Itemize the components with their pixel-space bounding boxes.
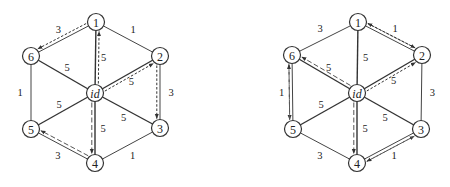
edge-weight-label: 3 [317,23,322,34]
node-label: 4 [92,157,98,171]
edge-weight-label: 5 [318,99,323,110]
edge-weight-label: 1 [392,23,397,34]
edge-weight-label: 3 [168,87,173,98]
edge-weight-label: 5 [362,123,367,134]
path-arrow-3-4 [367,136,414,161]
edge-weight-label: 1 [131,24,136,35]
node-label: 3 [418,123,424,137]
edge-6-1 [292,22,358,55]
node-label: 5 [28,123,34,137]
edge-weight-label: 5 [363,52,368,63]
node-5: 5 [285,121,302,138]
edge-weight-label: 5 [391,75,396,86]
edge-4-5 [293,129,357,163]
edge-weight-label: 1 [279,87,284,98]
path-arrow-1-6 [38,24,86,49]
path-arrow-4-5 [41,131,88,156]
edge-4-5 [31,129,95,163]
node-1: 1 [350,14,367,31]
edge-id-1 [357,22,358,93]
edge-weight-label: 3 [55,150,60,161]
graph-diagram: 123456id123456id 13131355555513131355555… [0,0,450,187]
node-label: 2 [157,50,163,64]
edge-id-1 [95,22,96,93]
edge-id-5 [293,93,357,129]
edge-weight-label: 3 [56,24,61,35]
node-label: 6 [289,49,295,63]
node-2: 2 [152,48,169,65]
node-label: 4 [354,157,360,171]
edge-weight-label: 5 [56,99,61,110]
edge-weight-label: 1 [17,87,22,98]
edge-weight-label: 5 [129,76,134,87]
node-3: 3 [413,121,430,138]
edge-weight-label: 5 [121,112,126,123]
node-id: id [349,85,366,102]
edge-weight-label: 5 [101,52,106,63]
node-label: 5 [290,123,296,137]
node-3: 3 [152,120,169,137]
path-arrow-id-1 [98,32,99,84]
node-6: 6 [284,47,301,64]
edge-2-3 [421,55,422,129]
node-label: 6 [28,50,34,64]
edge-id-6 [292,55,357,93]
edge-1-2 [358,22,422,55]
node-1: 1 [88,14,105,31]
edge-6-1 [31,22,96,56]
node-label: 2 [419,49,425,63]
node-label: id [352,87,362,101]
node-label: id [90,87,100,101]
edge-id-6 [31,56,95,93]
node-6: 6 [23,48,40,65]
edge-weight-label: 1 [130,150,135,161]
edge-1-2 [96,22,160,56]
edge-weight-label: 5 [100,123,105,134]
node-label: 1 [355,16,361,30]
edge-weight-label: 5 [382,112,387,123]
node-5: 5 [23,121,40,138]
edge-3-4 [357,129,421,163]
node-label: 3 [157,122,163,136]
node-label: 1 [93,16,99,30]
edge-weight-label: 5 [64,62,69,73]
edge-weight-label: 3 [430,87,435,98]
edge-weight-label: 5 [326,62,331,73]
edge-weight-label: 3 [317,150,322,161]
edge-5-6 [292,55,293,129]
node-4: 4 [349,155,366,172]
node-id: id [87,85,104,102]
node-2: 2 [414,47,431,64]
edge-weight-label: 1 [392,150,397,161]
edge-id-5 [31,93,95,129]
node-4: 4 [87,155,104,172]
